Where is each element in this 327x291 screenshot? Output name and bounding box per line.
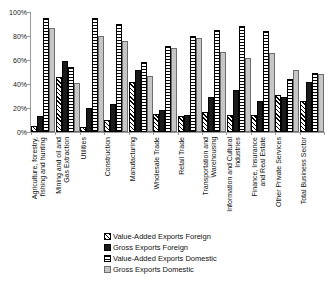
x-axis-label: Mining and oil and Gas Extraction [55,137,79,194]
x-tick-mark [300,132,301,135]
y-tick-mark [27,84,30,85]
x-tick-mark [55,132,56,135]
x-tick-mark [324,132,325,135]
y-tick-label: 20% [13,105,27,112]
legend-label: Value-Added Exports Domestic [113,255,217,263]
bar-group [178,12,202,132]
bar [122,41,128,132]
bar-group [275,12,299,132]
x-axis-label: Construction [104,137,128,176]
x-tick-mark [153,132,154,135]
x-tick-mark [178,132,179,135]
x-tick-mark [251,132,252,135]
legend-item: Gross Exports Domestic [104,264,284,275]
plot-wrapper: 0%20%40%60%80%100% [0,0,327,140]
legend-swatch-icon [104,266,111,273]
bar-group [55,12,79,132]
legend-swatch-icon [104,244,111,251]
bar-group [80,12,104,132]
x-tick-mark [226,132,227,135]
bar [245,58,251,132]
x-axis-label: Total Business Sector [300,137,324,204]
x-axis-category-labels: Agriculture, forestry, fishing and hunti… [31,137,324,232]
x-axis-label: Transportation and Warehousing [202,137,226,196]
bar-group [129,12,153,132]
bar-group [251,12,275,132]
legend-swatch-icon [104,233,111,240]
bar-group [31,12,55,132]
bar [269,53,275,132]
legend-item: Gross Exports Foreign [104,242,284,253]
x-axis-label: Other Private Services [275,137,299,207]
legend-item: Value-Added Exports Foreign [104,231,284,242]
x-axis-label: Agriculture, forestry, fishing and hunti… [31,137,55,199]
x-axis-label: Manufacturing [129,137,153,181]
bar [220,52,226,132]
y-tick-mark [27,108,30,109]
x-tick-mark [129,132,130,135]
bar [74,83,80,132]
bar-group [226,12,250,132]
y-tick-label: 100% [9,9,27,16]
bar [147,76,153,132]
bar-chart: 0%20%40%60%80%100% Agriculture, forestry… [0,0,327,291]
y-tick-mark [27,12,30,13]
bar [196,38,202,132]
bar-group [104,12,128,132]
x-tick-mark [80,132,81,135]
bar-group [202,12,226,132]
y-tick-label: 40% [13,81,27,88]
bar [98,36,104,132]
legend-label: Gross Exports Foreign [113,244,188,252]
x-axis-label: Finance, Insurance and Real Estate [251,137,275,197]
x-axis-label: Information and Cultural Industries [226,137,250,212]
y-tick-mark [27,36,30,37]
bar [171,48,177,132]
y-tick-mark [27,132,30,133]
x-axis-label: Retail Trade [178,137,202,175]
x-tick-mark [31,132,32,135]
y-tick-label: 0% [17,129,27,136]
chart-legend: Value-Added Exports ForeignGross Exports… [104,231,284,275]
bar [293,70,299,132]
x-tick-mark [275,132,276,135]
legend-label: Value-Added Exports Foreign [113,233,211,241]
y-tick-label: 60% [13,57,27,64]
bar [49,28,55,132]
x-tick-mark [104,132,105,135]
x-axis-label: Wholesale Trade [153,137,177,190]
bar-group [153,12,177,132]
y-tick-label: 80% [13,33,27,40]
y-axis: 0%20%40%60%80%100% [0,0,30,133]
bar-group [300,12,324,132]
legend-swatch-icon [104,255,111,262]
legend-item: Value-Added Exports Domestic [104,253,284,264]
bar [318,74,324,132]
x-axis-label: Utilities [80,137,104,160]
y-tick-mark [27,60,30,61]
plot-area [31,12,324,132]
x-tick-mark [202,132,203,135]
legend-label: Gross Exports Domestic [113,266,194,274]
